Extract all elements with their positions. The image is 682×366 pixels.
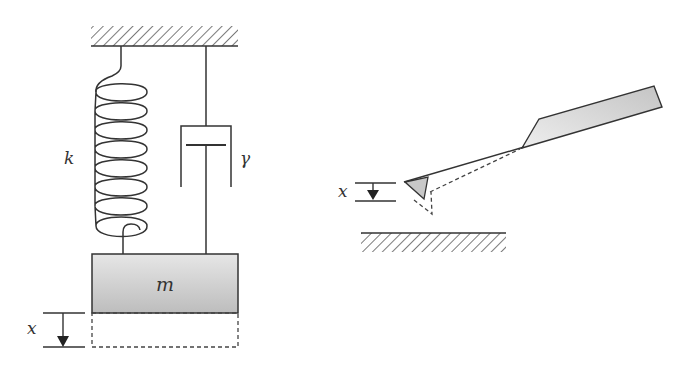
damper (181, 46, 231, 254)
damping-coefficient-label: γ (240, 148, 251, 168)
cantilever-chip (522, 86, 662, 148)
displaced-mass-outline (92, 313, 238, 347)
down-arrow-icon (367, 190, 379, 200)
displacement-label-left: x (27, 318, 37, 338)
diagram-canvas: k γ m x (0, 0, 682, 366)
mass-block: m (92, 254, 238, 313)
cantilever-beam (404, 147, 524, 182)
spring-mass-damper: k γ m x (27, 26, 251, 347)
down-arrow-icon (57, 336, 69, 347)
spring (95, 46, 147, 254)
displacement-marker-right: x (338, 181, 396, 201)
displacement-marker-left: x (27, 313, 85, 347)
sample-surface (361, 233, 506, 252)
spring-constant-label: k (64, 148, 74, 168)
ceiling-support (91, 26, 238, 46)
mass-label: m (156, 273, 174, 295)
afm-cantilever: x (338, 86, 662, 252)
deflected-cantilever (414, 149, 520, 214)
displacement-label-right: x (338, 181, 348, 201)
